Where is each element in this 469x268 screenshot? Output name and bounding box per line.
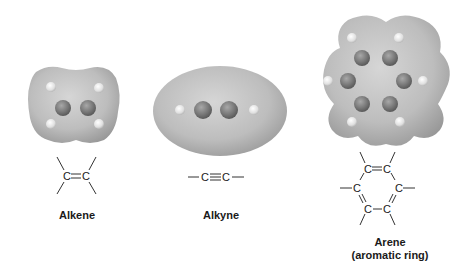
- carbon-atom-icon: [396, 73, 412, 89]
- hydrogen-atom-icon: [175, 105, 185, 115]
- svg-text:C: C: [383, 203, 391, 215]
- carbon-atom-icon: [194, 101, 212, 119]
- carbon-atom-icon: [354, 96, 370, 112]
- carbon-atom-icon: [80, 100, 96, 116]
- svg-text:C: C: [395, 182, 403, 194]
- carbon-atom-icon: [220, 101, 238, 119]
- alkene-electron-surface: [28, 67, 120, 143]
- hydrogen-atom-icon: [94, 119, 104, 129]
- svg-text:C: C: [364, 163, 372, 175]
- hydrogen-atom-icon: [249, 105, 259, 115]
- carbon-label: C: [201, 171, 209, 183]
- carbon-label: C: [82, 170, 90, 182]
- carbon-atom-icon: [55, 100, 71, 116]
- hydrogen-atom-icon: [46, 82, 56, 92]
- hydrogen-atom-icon: [94, 83, 104, 93]
- hydrogen-atom-icon: [394, 33, 404, 43]
- alkene-label: Alkene: [46, 209, 108, 222]
- carbon-atom-icon: [382, 50, 398, 66]
- carbon-atom-icon: [354, 50, 370, 66]
- carbon-atom-icon: [340, 73, 356, 89]
- arene-subtitle: (aromatic ring): [330, 249, 450, 262]
- alkyne-electron-surface: [153, 66, 287, 156]
- functional-groups-diagram: C C C C: [0, 0, 469, 268]
- svg-text:C: C: [364, 203, 372, 215]
- arene-electron-surface: [323, 15, 450, 145]
- hydrogen-atom-icon: [323, 76, 333, 86]
- carbon-label: C: [63, 170, 71, 182]
- hydrogen-atom-icon: [347, 33, 357, 43]
- hydrogen-atom-icon: [418, 76, 428, 86]
- hydrogen-atom-icon: [395, 117, 405, 127]
- svg-text:C: C: [353, 182, 361, 194]
- svg-text:C: C: [383, 163, 391, 175]
- arene-structural-formula: [340, 152, 415, 225]
- carbon-label: C: [222, 171, 230, 183]
- hydrogen-atom-icon: [347, 117, 357, 127]
- arene-label: Arene: [340, 236, 440, 249]
- carbon-atom-icon: [382, 96, 398, 112]
- hydrogen-atom-icon: [46, 119, 56, 129]
- alkyne-structural-formula: [188, 174, 244, 180]
- alkyne-label: Alkyne: [190, 209, 252, 222]
